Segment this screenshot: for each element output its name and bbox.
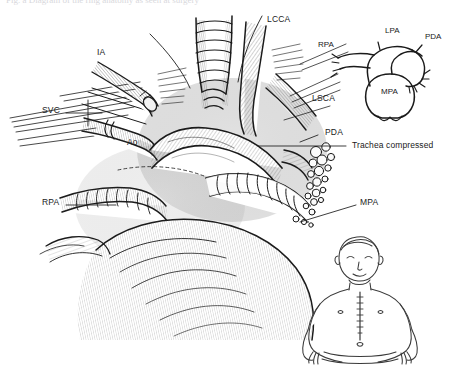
label-pda: PDA: [325, 128, 343, 137]
infant-torso-drawing: [0, 0, 455, 365]
label-mpa: MPA: [360, 198, 378, 207]
label-lsca: LSCA: [312, 94, 335, 103]
label-ia: IA: [97, 48, 105, 57]
label-rpa: RPA: [42, 198, 59, 207]
inset-label-pda: PDA: [425, 33, 441, 41]
vascular-ring-figure: Fig. a Diagram of the ring anatomy as se…: [0, 0, 455, 365]
inset-label-mpa: MPA: [381, 88, 398, 96]
label-lcca: LCCA: [267, 15, 290, 24]
inset-label-lpa: LPA: [385, 27, 400, 35]
label-ao: Ao: [127, 138, 138, 147]
label-svc: SVC: [42, 106, 60, 115]
label-trachea-compressed: Trachea compressed: [352, 141, 433, 150]
inset-label-rpa: RPA: [318, 41, 334, 49]
